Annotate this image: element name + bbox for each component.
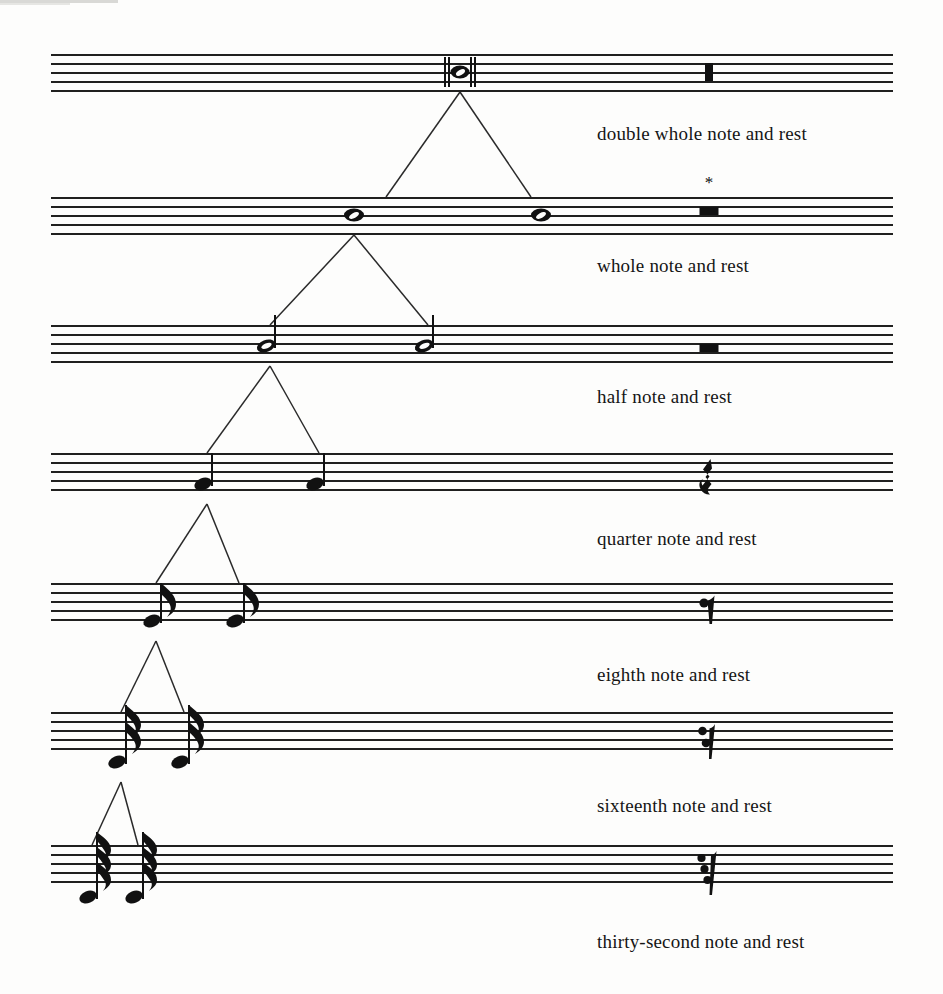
connector-line [121,782,138,845]
connector-line [121,641,156,712]
caption-sixteenth: sixteenth note and rest [597,795,772,817]
staff-line [51,233,893,235]
staff-line [51,453,893,455]
caption-eighth: eighth note and rest [597,664,750,686]
sixteenth-flags [189,705,213,765]
connector-line [460,92,531,197]
staff-line [51,197,893,199]
staff-line [51,863,893,865]
staff-line [51,489,893,491]
breve-right-bar-inner [470,57,472,87]
breve-left-bar [444,57,446,87]
note-stem [323,453,325,486]
caption-double-whole: double whole note and rest [597,123,807,145]
breve-left-bar-inner [448,57,450,87]
half-rest [700,344,719,352]
staff-line [51,206,893,208]
staff-line [51,81,893,83]
staff-line [51,854,893,856]
breve-right-bar [474,57,476,87]
connector-line [156,504,207,583]
connector-line [386,92,460,197]
thirty-second-rest [696,849,722,903]
thirty-second-flags [143,832,167,902]
staff-line [51,480,893,482]
thirty-second-flags [97,832,121,902]
staff-line [51,721,893,723]
staff-line [51,748,893,750]
staff-line [51,730,893,732]
caption-thirty-second: thirty-second note and rest [597,931,804,953]
staff-line [51,881,893,883]
connector-line [207,504,239,583]
note-stem [274,315,276,348]
sixteenth-rest [697,721,721,767]
double-whole-rest [705,63,713,81]
connector-line [270,366,319,453]
staff-line [51,361,893,363]
staff-quarter [51,453,893,493]
whole-note [344,209,364,222]
staff-line [51,63,893,65]
staff-line [51,712,893,714]
staff-line [51,224,893,226]
eighth-flag [161,583,185,623]
staff-sixteenth [51,712,893,752]
staff-whole [51,197,893,237]
breve-notehead [451,66,470,79]
staff-line [51,462,893,464]
staff-line [51,334,893,336]
note-value-chart-page: double whole note and rest * whole note … [0,0,943,994]
staff-line [51,343,893,345]
staff-thirty-second [51,845,893,885]
staff-half [51,325,893,365]
scan-edge-mark-secondary [0,3,70,5]
staff-line [51,352,893,354]
staff-line [51,739,893,741]
staff-line [51,90,893,92]
caption-half: half note and rest [597,386,732,408]
note-stem [432,315,434,348]
staff-line [51,72,893,74]
asterisk-footnote-marker: * [705,174,714,191]
note-stem [211,453,213,486]
staff-line [51,54,893,56]
staff-line [51,325,893,327]
staff-line [51,471,893,473]
staff-line [51,215,893,217]
staff-line [51,845,893,847]
whole-rest [700,207,719,215]
connector-line [270,235,354,325]
caption-quarter: quarter note and rest [597,528,757,550]
sixteenth-flags [126,705,150,765]
connector-line [354,235,428,325]
quarter-rest [696,457,722,503]
staff-line [51,872,893,874]
caption-whole: whole note and rest [597,255,749,277]
connector-line [207,366,270,453]
eighth-flag [244,583,268,623]
staff-double-whole [51,54,893,94]
whole-note [531,209,551,222]
connector-line [156,641,184,712]
eighth-rest [698,592,720,632]
